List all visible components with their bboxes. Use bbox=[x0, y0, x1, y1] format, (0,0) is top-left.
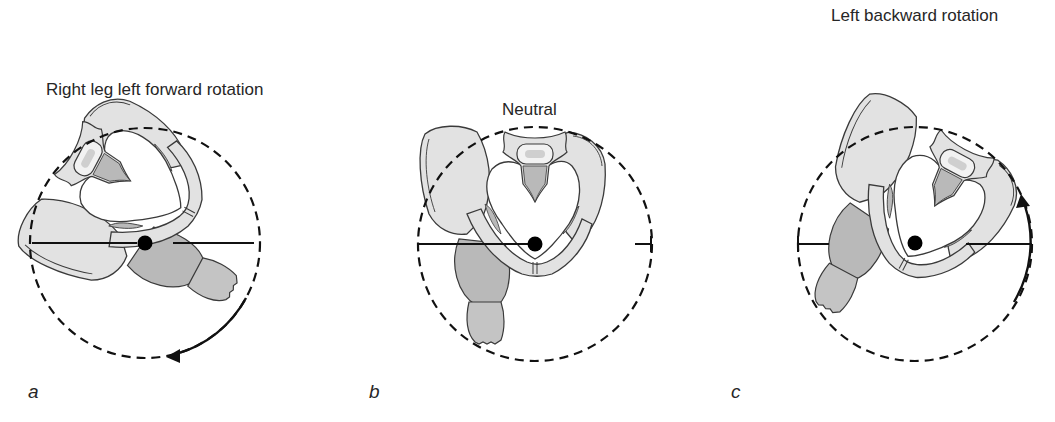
arrow-head-icon bbox=[1016, 194, 1030, 208]
arrow-head-icon bbox=[166, 349, 180, 363]
rotation-arc bbox=[1014, 206, 1031, 302]
panel-c-illustration bbox=[767, 85, 1033, 364]
rotation-arc bbox=[176, 298, 246, 354]
pivot-dot bbox=[528, 237, 543, 252]
pivot-dot bbox=[908, 236, 923, 251]
pivot-dot bbox=[138, 236, 153, 251]
panel-a-illustration bbox=[10, 83, 289, 363]
panel-b-illustration bbox=[418, 126, 652, 361]
pelvis-rotation-diagram bbox=[0, 0, 1055, 422]
